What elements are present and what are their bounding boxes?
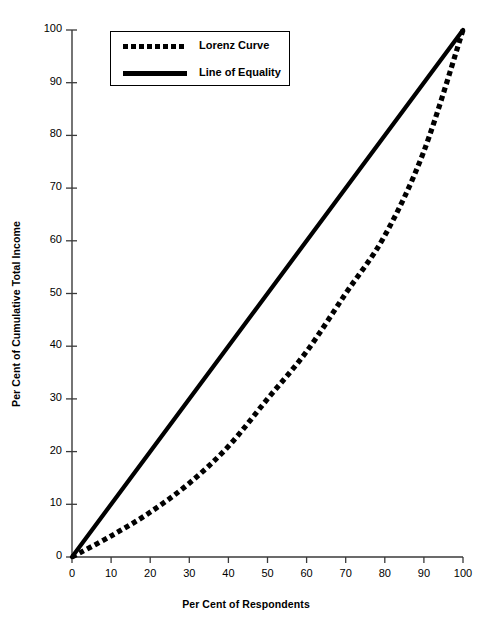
legend-item-line-of-equality: Line of Equality <box>111 60 291 87</box>
plot-area <box>0 0 492 628</box>
x-tick-label: 10 <box>91 567 131 579</box>
x-tick-label: 30 <box>169 567 209 579</box>
x-axis-title: Per Cent of Respondents <box>0 598 492 610</box>
x-tick-label: 0 <box>52 567 92 579</box>
y-axis-title: Per Cent of Cumulative Total Income <box>10 0 22 628</box>
lorenz-curve-chart: Lorenz Curve Line of Equality 0102030405… <box>0 0 492 628</box>
x-tick-label: 20 <box>130 567 170 579</box>
legend-label-lorenz-curve: Lorenz Curve <box>199 39 269 51</box>
x-tick-label: 100 <box>443 567 483 579</box>
x-tick-label: 50 <box>248 567 288 579</box>
legend-label-line-of-equality: Line of Equality <box>199 66 281 78</box>
x-tick-label: 80 <box>365 567 405 579</box>
y-axis-title-wrapper: Per Cent of Cumulative Total Income <box>10 0 30 628</box>
legend-swatch-solid-icon <box>123 71 187 76</box>
x-tick-label: 70 <box>326 567 366 579</box>
x-tick-label: 90 <box>404 567 444 579</box>
x-tick-label: 40 <box>208 567 248 579</box>
legend-item-lorenz-curve: Lorenz Curve <box>111 33 291 60</box>
chart-legend: Lorenz Curve Line of Equality <box>110 31 290 86</box>
x-tick-label: 60 <box>287 567 327 579</box>
series-line-line-of-equality <box>72 30 463 557</box>
legend-swatch-dotted-icon <box>123 44 187 49</box>
